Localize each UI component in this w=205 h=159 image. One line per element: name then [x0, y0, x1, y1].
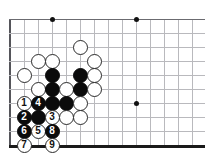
move-9-white: 9 — [45, 138, 60, 153]
white-stone-f9 — [73, 110, 88, 125]
grid-line-vertical — [122, 19, 123, 147]
move-number-label: 8 — [49, 126, 55, 136]
move-number-label: 6 — [21, 126, 27, 136]
move-3-white: 3 — [45, 110, 60, 125]
black-stone-d7 — [45, 82, 60, 97]
black-stone-d8 — [45, 96, 60, 111]
grid-line-vertical — [192, 19, 193, 147]
white-stone-b6 — [17, 68, 32, 83]
move-number-label: 2 — [21, 112, 27, 122]
move-number-label: 4 — [35, 98, 41, 108]
star-point — [134, 17, 139, 22]
black-stone-f7 — [73, 82, 88, 97]
move-7-white: 7 — [17, 138, 32, 153]
go-board: 142365879 — [0, 0, 205, 159]
move-number-label: 3 — [49, 112, 55, 122]
grid-line-horizontal — [9, 19, 205, 20]
grid-line-vertical — [164, 19, 165, 147]
white-stone-c7 — [31, 82, 46, 97]
move-6-black: 6 — [17, 124, 32, 139]
grid-line-vertical — [150, 19, 151, 147]
black-stone-f6 — [73, 68, 88, 83]
move-2-black: 2 — [17, 110, 32, 125]
move-5-white: 5 — [31, 124, 46, 139]
black-stone-d6 — [45, 68, 60, 83]
move-4-black: 4 — [31, 96, 46, 111]
move-8-black: 8 — [45, 124, 60, 139]
white-stone-f4 — [73, 40, 88, 55]
grid-line-vertical — [136, 19, 137, 147]
star-point — [134, 101, 139, 106]
white-stone-e9 — [59, 110, 74, 125]
move-number-label: 7 — [21, 140, 27, 150]
grid-line-vertical — [108, 19, 109, 147]
black-stone-e8 — [59, 96, 74, 111]
white-stone-d5 — [45, 54, 60, 69]
white-stone-g6 — [87, 68, 102, 83]
grid-line-horizontal — [9, 75, 205, 76]
black-stone-c9 — [31, 110, 46, 125]
white-stone-g5 — [87, 54, 102, 69]
grid-line-vertical — [9, 19, 11, 147]
white-stone-c5 — [31, 54, 46, 69]
grid-line-horizontal — [9, 33, 205, 34]
white-stone-e7 — [59, 82, 74, 97]
grid-line-horizontal — [9, 47, 205, 48]
grid-line-vertical — [178, 19, 179, 147]
white-stone-f8 — [73, 96, 88, 111]
move-number-label: 9 — [49, 140, 55, 150]
move-number-label: 5 — [35, 126, 41, 136]
star-point — [50, 17, 55, 22]
white-stone-g7 — [87, 82, 102, 97]
move-number-label: 1 — [21, 98, 27, 108]
move-1-white: 1 — [17, 96, 32, 111]
grid-line-horizontal — [9, 145, 205, 148]
